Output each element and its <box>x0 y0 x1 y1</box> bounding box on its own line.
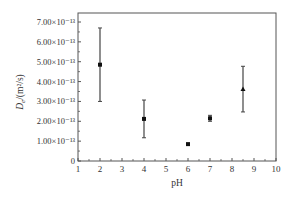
y-tick-label: 2.00×10⁻¹³ <box>37 116 76 126</box>
x-tick-label: 10 <box>272 164 282 174</box>
data-point <box>98 28 102 101</box>
y-axis: 01.00×10⁻¹³2.00×10⁻¹³3.00×10⁻¹³4.00×10⁻¹… <box>37 17 81 166</box>
plot-border <box>78 13 276 161</box>
plot-frame <box>78 13 276 161</box>
y-tick-label: 7.00×10⁻¹³ <box>37 17 76 27</box>
x-tick-label: 6 <box>186 164 191 174</box>
square-marker <box>142 117 146 121</box>
x-tick-label: 7 <box>208 164 213 174</box>
y-tick-label: 3.00×10⁻¹³ <box>37 96 76 106</box>
x-tick-label: 1 <box>76 164 81 174</box>
y-tick-label: 6.00×10⁻¹³ <box>37 37 76 47</box>
y-axis-title: De/(m²/s) <box>15 74 27 111</box>
data-point <box>241 66 246 112</box>
chart: 01.00×10⁻¹³2.00×10⁻¹³3.00×10⁻¹³4.00×10⁻¹… <box>0 0 294 199</box>
data-series <box>98 28 246 146</box>
y-tick-label: 5.00×10⁻¹³ <box>37 57 76 67</box>
x-tick-label: 8 <box>230 164 235 174</box>
x-tick-label: 3 <box>120 164 125 174</box>
square-marker <box>186 142 190 146</box>
data-point <box>142 100 146 138</box>
y-tick-label: 4.00×10⁻¹³ <box>37 77 76 87</box>
y-tick-label: 1.00×10⁻¹³ <box>37 136 76 146</box>
y-axis-title-unit: /(m²/s) <box>15 74 26 100</box>
x-tick-label: 5 <box>164 164 169 174</box>
data-point <box>208 115 212 121</box>
square-marker <box>98 63 102 67</box>
x-tick-label: 2 <box>98 164 103 174</box>
x-axis-title: pH <box>171 178 183 188</box>
x-axis: 12345678910 <box>76 158 281 174</box>
y-tick-label: 0 <box>71 156 75 166</box>
data-point <box>186 142 190 146</box>
square-marker <box>208 116 212 120</box>
x-tick-label: 4 <box>142 164 147 174</box>
svg-text:De/(m²/s): De/(m²/s) <box>15 74 27 111</box>
y-axis-title-main: D <box>15 103 25 111</box>
x-tick-label: 9 <box>252 164 257 174</box>
triangle-marker <box>241 87 246 92</box>
